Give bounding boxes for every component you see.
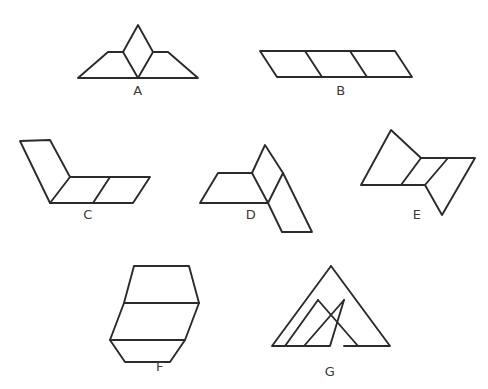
figure-f-label: F [156, 359, 164, 374]
figure-g: G [272, 266, 390, 379]
figure-d-label: D [246, 207, 256, 222]
figure-a: A [78, 25, 198, 98]
figure-c-divider-1 [50, 177, 70, 203]
figure-g-inner-left [285, 300, 344, 346]
figure-f: F [110, 266, 199, 374]
figure-c-outline [20, 140, 150, 203]
figure-b-outline [260, 51, 412, 77]
figure-e: E [361, 130, 475, 222]
figure-e-divider-2 [425, 158, 448, 185]
figure-a-label: A [133, 83, 142, 98]
figure-c-divider-2 [93, 177, 110, 203]
figure-e-divider-1 [401, 158, 421, 185]
figures-canvas: A B C D E [0, 0, 488, 389]
figure-d-divider-2 [268, 173, 283, 203]
figure-f-cell-top [124, 266, 199, 303]
figure-b-label: B [336, 83, 345, 98]
figure-a-divider-left [123, 52, 138, 78]
figure-g-label: G [325, 364, 335, 379]
figure-e-label: E [413, 207, 422, 222]
figure-d-divider-1 [252, 173, 268, 203]
figure-f-cell-bottom [110, 340, 185, 362]
figure-c: C [20, 140, 150, 222]
figure-b-divider-2 [350, 51, 367, 77]
figure-e-outline [361, 130, 475, 215]
figure-f-cell-middle [110, 303, 199, 340]
figure-a-divider-right [138, 52, 153, 78]
figure-c-label: C [83, 207, 92, 222]
figure-a-outline [78, 25, 198, 78]
figure-b-divider-1 [305, 51, 322, 77]
figure-b: B [260, 51, 412, 98]
figure-sheet: A B C D E [0, 0, 488, 389]
figure-d: D [200, 145, 312, 232]
